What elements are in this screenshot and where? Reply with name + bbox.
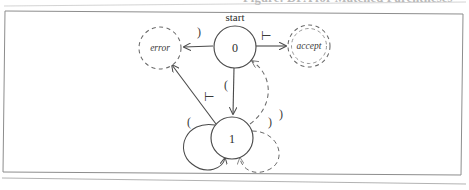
state-error-label: error: [150, 43, 170, 53]
state-0[interactable]: 0: [214, 26, 256, 68]
state-accept[interactable]: accept: [288, 25, 330, 67]
start-label: start: [226, 11, 245, 23]
edge-label-self-loop-open: (: [187, 115, 191, 129]
state-error[interactable]: error: [139, 27, 181, 69]
edge-label-0-error: ): [197, 25, 201, 39]
state-diagram-canvas: error 0 start accept 1 ) ⊢ ( ⊢ ) ( ): [0, 0, 469, 190]
state-1-label: 1: [229, 132, 235, 146]
state-0-label: 0: [232, 41, 238, 55]
edge-label-1-error: ⊢: [204, 90, 214, 104]
transition-1-to-0: [250, 61, 268, 124]
scanned-page: Figure: DFA for Matched Parentheses: [0, 0, 469, 190]
state-accept-label: accept: [297, 41, 322, 51]
edge-label-0-accept: ⊢: [261, 29, 271, 43]
transition-0-to-1: [233, 68, 234, 114]
state-1[interactable]: 1: [211, 117, 253, 159]
edge-label-self-loop-close: ): [279, 107, 283, 121]
transition-0-to-error: [184, 46, 213, 47]
edge-label-0-1: (: [224, 78, 228, 92]
edge-label-1-0: ): [268, 115, 272, 129]
